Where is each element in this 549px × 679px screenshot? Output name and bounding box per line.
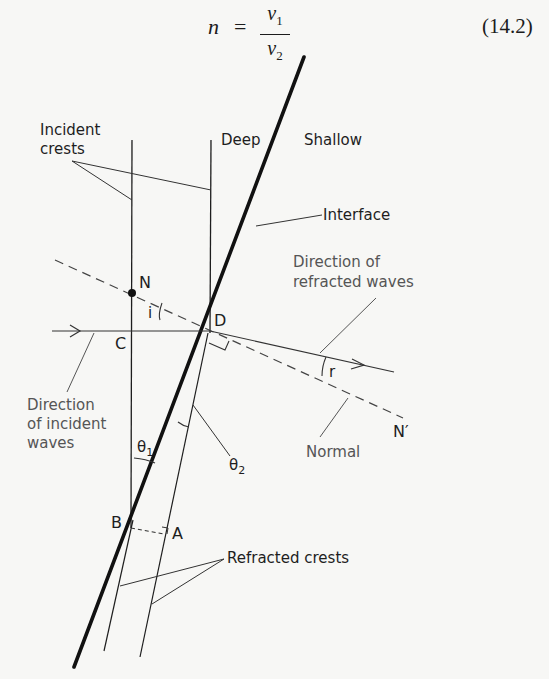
incident-direction-label: of incident — [27, 415, 107, 433]
refracted-crests-leader — [152, 559, 224, 604]
incident-crest-left — [131, 140, 132, 528]
point-N-prime-label: N′ — [393, 422, 409, 441]
shallow-label: Shallow — [304, 131, 362, 149]
point-C-label: C — [115, 334, 126, 353]
point-D-label: D — [214, 311, 226, 330]
angle-theta1-label: θ1 — [137, 438, 153, 459]
BA-dashed-line — [131, 528, 164, 534]
point-A-label: A — [172, 524, 183, 543]
refracted-crests-label: Refracted crests — [227, 549, 349, 567]
angle-theta2-label: θ2 — [229, 456, 245, 477]
incident-direction-leader — [67, 333, 94, 392]
angle-r-arc — [322, 357, 326, 376]
theta1-symbol: θ — [137, 438, 146, 456]
incident-crests-label: crests — [40, 140, 85, 158]
interface-leader — [256, 215, 322, 226]
point-N-label: N — [139, 273, 151, 292]
incident-direction-label: Direction — [27, 396, 95, 414]
theta1-subscript: 1 — [146, 446, 153, 459]
angle-theta2-arc — [178, 422, 189, 427]
point-B-label: B — [111, 513, 122, 532]
point-N-dot — [128, 289, 136, 297]
incident-direction-label: waves — [27, 434, 75, 452]
interface-line — [74, 57, 304, 667]
angle-r-label: r — [329, 363, 336, 381]
refracted-direction-label: refracted waves — [293, 273, 414, 291]
refracted-crest-upper — [140, 333, 208, 657]
theta2-leader — [193, 405, 230, 456]
refracted-crests-leader — [120, 559, 224, 586]
refraction-diagram: Incident crests Deep Shallow Interface D… — [0, 0, 549, 679]
incident-crests-leader — [72, 161, 211, 190]
angle-i-label: i — [148, 304, 152, 322]
theta2-symbol: θ — [229, 456, 238, 474]
refracted-crest-lower — [104, 520, 133, 651]
deep-label: Deep — [221, 131, 261, 149]
angle-i-arc — [159, 303, 162, 320]
interface-label: Interface — [323, 206, 390, 224]
refracted-direction-ray — [210, 331, 394, 372]
right-angle-marker-A — [162, 527, 168, 534]
theta2-subscript: 2 — [238, 464, 245, 477]
normal-leader — [320, 398, 348, 437]
incident-crests-label: Incident — [40, 121, 101, 139]
normal-label: Normal — [306, 443, 360, 461]
right-angle-marker-D — [209, 341, 229, 350]
refracted-direction-label: Direction of — [293, 253, 381, 271]
refracted-direction-leader — [320, 298, 376, 353]
